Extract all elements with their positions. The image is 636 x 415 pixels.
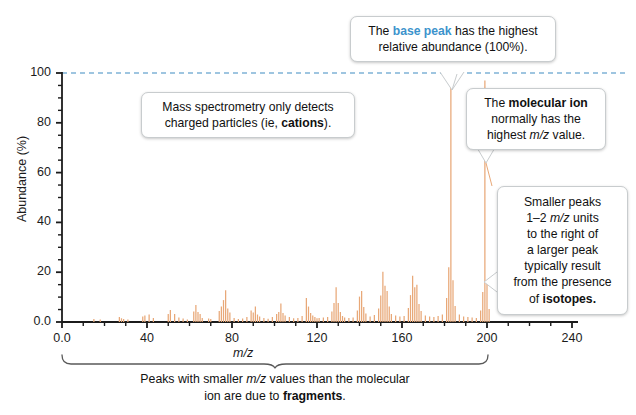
x-tick-label: 160: [372, 331, 432, 345]
mass-spectrum-figure: 0.020406080100 0.04080120160200240 Abund…: [0, 0, 636, 415]
callout-cations-text-1: Mass spectrometry only detects: [162, 100, 333, 114]
y-tick-label: 20: [0, 264, 51, 278]
callout-molecular-ion-bold: molecular ion: [509, 96, 588, 110]
callout-isotopes-text-3: units: [570, 211, 599, 225]
callout-molecular-ion-text-4: value.: [549, 128, 585, 142]
callout-molecular-ion-text-1: The: [484, 96, 508, 110]
callout-cations-text-2: charged particles (ie,: [165, 116, 282, 130]
callout-cations-bold: cations: [281, 116, 324, 130]
callout-base-peak-text-3: relative abundance (100%).: [378, 40, 527, 54]
callout-isotopes-bold: isotopes.: [543, 292, 597, 306]
callout-cations: Mass spectrometry only detects charged p…: [141, 92, 355, 138]
x-tick-label: 120: [287, 331, 347, 345]
callout-molecular-ion-italic: m/z: [530, 128, 550, 142]
callout-cations-text-3: ).: [324, 116, 331, 130]
callout-molecular-ion-text-3: highest: [487, 128, 530, 142]
callout-isotopes-text-7: from the presence: [513, 275, 611, 289]
callout-isotopes: Smaller peaks 1–2 m/z units to the right…: [497, 186, 628, 315]
fragments-bracket: [62, 355, 488, 368]
fragments-caption: Peaks with smaller m/z values than the m…: [95, 371, 455, 404]
callout-base-peak-text-1: The: [368, 24, 392, 38]
x-tick-label: 240: [542, 331, 602, 345]
callout-molecular-ion: The molecular ion normally has the highe…: [466, 88, 606, 150]
callout-isotopes-text-6: typically result: [524, 259, 601, 273]
callout-isotopes-text-1: Smaller peaks: [524, 195, 601, 209]
callout-isotopes-text-2: 1–2: [526, 211, 550, 225]
callout-molecular-ion-text-2: normally has the: [491, 112, 580, 126]
x-tick-label: 0.0: [32, 331, 92, 345]
fragments-caption-text-1: Peaks with smaller: [140, 372, 246, 386]
fragments-caption-text-3: ion are due to: [204, 389, 283, 403]
y-tick-label: 100: [0, 65, 51, 79]
callout-isotopes-text-8: of: [529, 292, 543, 306]
callout-isotopes-italic: m/z: [550, 211, 570, 225]
fragments-caption-text-2: values than the molecular: [266, 372, 410, 386]
x-axis-title: m/z: [233, 346, 253, 360]
y-tick-label: 0.0: [0, 314, 51, 328]
fragments-caption-text-4: .: [342, 389, 345, 403]
x-tick-label: 200: [457, 331, 517, 345]
x-tick-label: 40: [117, 331, 177, 345]
x-tick-label: 80: [202, 331, 262, 345]
callout-isotopes-text-4: to the right of: [527, 227, 598, 241]
callout-base-peak-accent: base peak: [393, 24, 452, 38]
fragments-caption-bold: fragments: [283, 389, 342, 403]
callout-isotopes-text-5: a larger peak: [527, 243, 598, 257]
callout-base-peak-text-2: has the highest: [452, 24, 538, 38]
fragments-caption-italic: m/z: [246, 372, 266, 386]
callout-base-peak: The base peak has the highest relative a…: [350, 16, 556, 62]
y-axis-title: Abundance (%): [15, 119, 29, 239]
